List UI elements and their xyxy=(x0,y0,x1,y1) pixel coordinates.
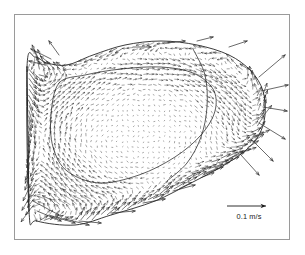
domain-contours xyxy=(27,41,266,225)
velocity-vector-field xyxy=(15,15,291,241)
figure-root: 0.1 m/s xyxy=(0,0,305,255)
figure-frame: 0.1 m/s xyxy=(14,14,290,240)
vector-arrows xyxy=(21,37,288,226)
